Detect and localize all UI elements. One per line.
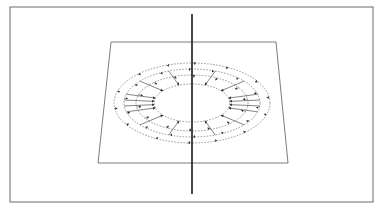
field-arrowhead	[255, 81, 257, 82]
field-arrow	[126, 108, 155, 112]
field-arrowhead	[154, 83, 157, 85]
field-arrow	[230, 100, 260, 101]
field-arrowhead	[138, 95, 142, 96]
field-arrowhead	[235, 88, 239, 89]
field-arrowhead	[243, 131, 245, 132]
field-arrowhead	[208, 127, 209, 129]
field-arrow	[229, 108, 258, 112]
field-arrow	[230, 105, 260, 106]
field-arrowhead	[161, 73, 162, 74]
field-arrow	[169, 71, 179, 85]
field-arrowhead	[175, 76, 176, 78]
field-arrow	[140, 115, 163, 125]
field-arrow	[221, 81, 244, 91]
field-arrowhead	[135, 84, 138, 85]
field-arrowhead	[215, 78, 217, 80]
field-arrowhead	[247, 121, 250, 122]
horizontal-plane	[98, 42, 288, 163]
field-arrowhead	[241, 111, 245, 112]
field-arrow	[205, 71, 215, 85]
field-arrowhead	[127, 124, 129, 125]
field-arrow	[126, 94, 155, 98]
field-arrow	[124, 105, 154, 106]
field-arrowhead	[139, 74, 141, 75]
field-arrowhead	[226, 67, 227, 68]
field-arrowhead	[146, 127, 148, 128]
field-arrow	[124, 100, 154, 101]
field-arrowhead	[222, 132, 223, 133]
field-arrow	[169, 121, 179, 135]
field-arrowhead	[167, 126, 169, 128]
field-arrowhead	[236, 78, 238, 79]
field-arrow	[229, 94, 258, 98]
field-arrow	[205, 121, 215, 135]
field-arrowhead	[145, 117, 149, 118]
field-diagram	[0, 0, 384, 217]
field-arrowhead	[227, 122, 230, 124]
field-arrowhead	[215, 140, 216, 141]
